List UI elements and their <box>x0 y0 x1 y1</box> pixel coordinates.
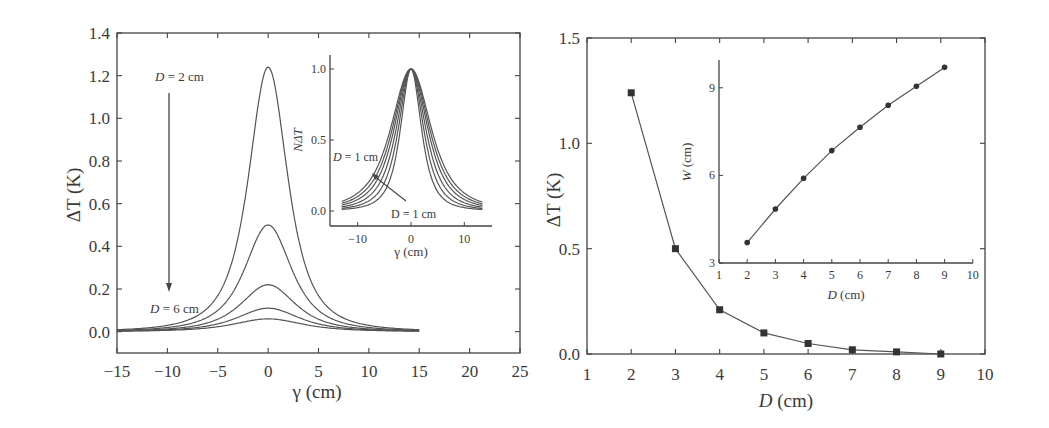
right-x-axis-label: D (cm) <box>758 390 813 412</box>
right-inset-chart: 12345678910369 W (cm) D (cm) <box>679 60 979 302</box>
square-marker <box>805 340 812 347</box>
inset-x-tick-label: 10 <box>458 232 470 246</box>
y-tick-label: 1.4 <box>89 24 111 43</box>
x-tick-label: 20 <box>461 362 478 381</box>
x-tick-label: 2 <box>627 365 636 384</box>
x-tick-label: −15 <box>104 362 131 381</box>
y-tick-label: 1.2 <box>89 67 110 86</box>
annotation-d-6cm: D = 6 cm <box>149 301 199 316</box>
inset-curve <box>342 69 483 202</box>
rinset-x-tick-label: 1 <box>716 268 722 282</box>
right-y-axis-label: ΔT (K) <box>543 173 565 228</box>
width-line <box>747 67 944 242</box>
x-tick-label: 5 <box>314 362 323 381</box>
circle-marker <box>942 65 948 71</box>
x-tick-label: 25 <box>512 362 529 381</box>
inset-curve <box>342 69 483 206</box>
inset-x-axis-label: γ (cm) <box>393 244 428 259</box>
y-tick-label: 0.0 <box>89 323 110 342</box>
rinset-x-tick-label: 3 <box>772 268 778 282</box>
right-y-axis: 0.00.51.01.5 <box>559 29 985 364</box>
rinset-y-axis-label: W (cm) <box>679 143 694 182</box>
inset-y-axis-label: NΔT <box>290 127 305 152</box>
inset-curve <box>342 69 483 207</box>
x-tick-label: −10 <box>154 362 181 381</box>
x-tick-label: 3 <box>671 365 680 384</box>
circle-marker <box>829 148 835 154</box>
right-plot-frame <box>587 38 985 354</box>
inset-x-tick-label: −10 <box>348 232 367 246</box>
rinset-x-tick-label: 6 <box>857 268 863 282</box>
rinset-x-tick-label: 4 <box>801 268 807 282</box>
y-tick-label: 0.6 <box>89 195 110 214</box>
y-tick-label: 1.0 <box>559 134 580 153</box>
inset-curves <box>342 69 483 210</box>
circle-marker <box>914 84 920 90</box>
circle-marker <box>744 240 750 246</box>
circle-marker <box>857 124 863 130</box>
square-marker <box>716 306 723 313</box>
inset-curve <box>342 69 483 204</box>
rinset-x-tick-label: 8 <box>913 268 919 282</box>
annotation-d-2cm: D = 2 cm <box>154 69 204 84</box>
square-marker <box>893 348 900 355</box>
x-tick-label: 10 <box>977 365 994 384</box>
figure: −15−10−50510152025 0.00.20.40.60.81.01.2… <box>0 0 1049 428</box>
inset-annotation-bottom: D = 1 cm <box>391 207 437 221</box>
inset-y-tick-label: 0.5 <box>311 133 326 147</box>
arrow-down-icon <box>166 283 172 292</box>
right-series <box>628 89 945 357</box>
left-curves <box>117 67 419 331</box>
x-tick-label: 0 <box>264 362 273 381</box>
x-tick-label: 8 <box>892 365 901 384</box>
x-tick-label: −5 <box>209 362 227 381</box>
square-marker <box>849 346 856 353</box>
y-tick-label: 0.0 <box>559 345 580 364</box>
circle-marker <box>801 176 807 182</box>
rinset-x-tick-label: 2 <box>744 268 750 282</box>
x-tick-label: 6 <box>804 365 813 384</box>
rinset-y-tick-label: 3 <box>709 256 715 270</box>
inset-y-tick-label: 0.0 <box>311 204 326 218</box>
x-tick-label: 4 <box>715 365 724 384</box>
rinset-x-tick-label: 10 <box>967 268 979 282</box>
curve-D2cm <box>117 67 419 330</box>
y-tick-label: 0.2 <box>89 280 110 299</box>
rinset-y-tick-label: 9 <box>709 81 715 95</box>
rinset-ticks: 12345678910369 <box>709 81 979 282</box>
rinset-x-tick-label: 7 <box>885 268 891 282</box>
square-marker <box>628 89 635 96</box>
y-tick-label: 1.0 <box>89 109 110 128</box>
x-tick-label: 10 <box>360 362 377 381</box>
y-tick-label: 1.5 <box>559 29 580 48</box>
inset-y-tick-label: 1.0 <box>311 62 326 76</box>
rinset-x-tick-label: 5 <box>829 268 835 282</box>
circle-marker <box>885 103 891 109</box>
x-tick-label: 9 <box>937 365 946 384</box>
rinset-series <box>744 65 947 246</box>
rinset-x-tick-label: 9 <box>942 268 948 282</box>
right-chart: 12345678910 0.00.51.01.5 ΔT (K) D (cm) 1… <box>543 29 994 412</box>
right-x-axis: 12345678910 <box>583 38 994 384</box>
left-inset-chart: −100100.00.51.0 NΔT γ (cm) D = 1 cm D = … <box>290 55 492 259</box>
square-marker <box>937 351 944 358</box>
inset-annotation-top: D = 1 cm <box>332 150 379 164</box>
left-chart: −15−10−50510152025 0.00.20.40.60.81.01.2… <box>63 24 529 403</box>
square-marker <box>672 245 679 252</box>
x-tick-label: 7 <box>848 365 857 384</box>
y-tick-label: 0.8 <box>89 152 110 171</box>
inset-curve <box>342 69 483 209</box>
x-tick-label: 5 <box>760 365 769 384</box>
rinset-x-axis-label: D (cm) <box>826 287 864 302</box>
delta-t-line <box>631 93 941 354</box>
circle-marker <box>773 206 779 212</box>
rinset-y-tick-label: 6 <box>709 168 715 182</box>
x-tick-label: 1 <box>583 365 592 384</box>
left-x-axis-label: γ (cm) <box>291 381 341 403</box>
square-marker <box>760 329 767 336</box>
x-tick-label: 15 <box>411 362 428 381</box>
y-tick-label: 0.5 <box>559 240 580 259</box>
left-y-axis-label: ΔT (K) <box>63 168 85 223</box>
y-tick-label: 0.4 <box>89 237 111 256</box>
